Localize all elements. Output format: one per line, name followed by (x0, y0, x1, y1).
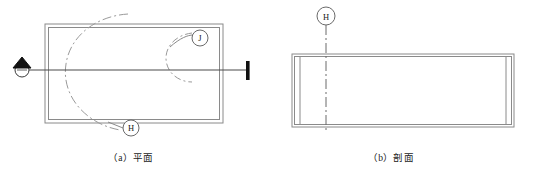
section-outer-rectangle (292, 54, 514, 127)
figure-a-caption: （a）平面 (108, 150, 153, 164)
callout-h-section[interactable]: H (317, 7, 335, 25)
section-end-bar-right (246, 61, 250, 80)
up-triangle-arrow-icon (13, 57, 31, 68)
figure-b-group: H (292, 7, 514, 132)
drawing-canvas: J H H (0, 0, 540, 172)
callout-h-section-label: H (323, 12, 329, 22)
section-arrow-marker-left[interactable] (13, 57, 31, 77)
plan-large-swing-arc (65, 14, 128, 130)
figure-sheet: J H H （a） (0, 0, 540, 172)
figure-a-group: J H (13, 14, 250, 136)
callout-h-plan-label: H (128, 123, 134, 133)
callout-j[interactable]: J (170, 30, 208, 47)
section-inner-rectangle (295, 57, 512, 125)
figure-b-caption: （b）剖面 (368, 150, 414, 164)
